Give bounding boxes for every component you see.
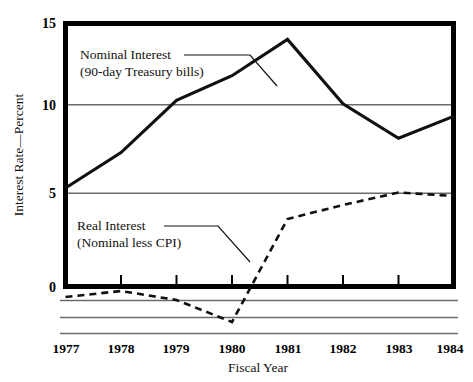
x-tick-label-1979: 1979 <box>163 341 190 356</box>
chart-container: 15 10 5 0 Interest Rate—Percent 1977 197… <box>0 0 473 382</box>
x-tick-label-1977: 1977 <box>53 341 80 356</box>
chart-background <box>0 0 473 382</box>
x-tick-label-1983: 1983 <box>386 341 413 356</box>
x-tick-label-1980: 1980 <box>219 341 246 356</box>
y-tick-label-5: 5 <box>49 186 56 201</box>
x-axis-title: Fiscal Year <box>228 360 289 375</box>
y-tick-label-10: 10 <box>42 98 56 113</box>
nominal-annotation-line2: (90-day Treasury bills) <box>80 64 204 79</box>
x-tick-label-1981: 1981 <box>275 341 302 356</box>
real-annotation-line2: (Nominal less CPI) <box>77 235 181 250</box>
x-tick-label-1984: 1984 <box>437 341 464 356</box>
nominal-annotation-line1: Nominal Interest <box>80 47 171 62</box>
y-tick-label-0: 0 <box>49 280 56 295</box>
interest-rate-line-chart: 15 10 5 0 Interest Rate—Percent 1977 197… <box>0 0 473 382</box>
y-tick-label-15: 15 <box>42 16 56 31</box>
x-tick-label-1982: 1982 <box>330 341 357 356</box>
y-axis-title: Interest Rate—Percent <box>11 93 26 216</box>
x-tick-label-1978: 1978 <box>108 341 135 356</box>
real-annotation-line1: Real Interest <box>77 218 146 233</box>
